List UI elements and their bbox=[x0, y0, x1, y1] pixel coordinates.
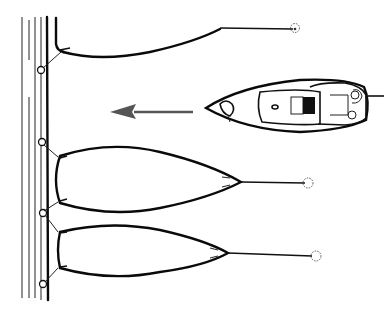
top-boat-cleat bbox=[60, 48, 70, 50]
dock bbox=[22, 17, 48, 300]
bottom-boat-hull bbox=[58, 225, 228, 276]
dock-ring-2 bbox=[39, 139, 46, 146]
approaching-boat-winch-2 bbox=[348, 111, 356, 119]
top-moored-boat bbox=[43, 18, 300, 68]
approaching-boat-cockpit-seat bbox=[330, 95, 348, 115]
top-boat-buoy-icon bbox=[291, 24, 300, 33]
middle-boat-cleat-2 bbox=[60, 199, 67, 201]
dock-edge bbox=[47, 17, 48, 300]
arrow-head bbox=[110, 104, 136, 119]
diagram-canvas bbox=[0, 0, 384, 317]
top-boat-mooring-line bbox=[220, 28, 293, 29]
bottom-moored-boat bbox=[45, 215, 321, 282]
docking-diagram bbox=[0, 0, 384, 317]
approaching-boat-companionway bbox=[291, 97, 303, 114]
bottom-boat-cleat-1 bbox=[60, 232, 67, 233]
top-boat-stern bbox=[56, 18, 64, 52]
middle-boat-hull bbox=[56, 147, 241, 212]
approaching-boat-winch-1 bbox=[351, 91, 359, 99]
approaching-boat-anchor-icon bbox=[220, 101, 234, 116]
middle-boat-dock-line-1 bbox=[44, 145, 58, 157]
approaching-boat bbox=[206, 80, 384, 132]
middle-boat-dock-line-2 bbox=[44, 202, 58, 211]
dock-rings bbox=[38, 67, 47, 288]
approaching-boat-cockpit bbox=[310, 83, 366, 125]
middle-boat-mooring-line bbox=[241, 182, 305, 183]
middle-boat-bow-mark-1 bbox=[222, 177, 230, 178]
approaching-boat-hatch bbox=[272, 105, 278, 109]
bottom-boat-cleat-2 bbox=[60, 266, 67, 267]
top-boat-hull bbox=[63, 29, 220, 57]
approaching-boat-cockpit-dark bbox=[303, 97, 315, 114]
bottom-boat-buoy-icon bbox=[311, 251, 321, 261]
direction-arrow-icon bbox=[110, 104, 193, 119]
top-boat-dock-line bbox=[43, 52, 61, 68]
bottom-boat-mooring-line bbox=[228, 253, 312, 256]
middle-moored-boat bbox=[44, 145, 313, 212]
